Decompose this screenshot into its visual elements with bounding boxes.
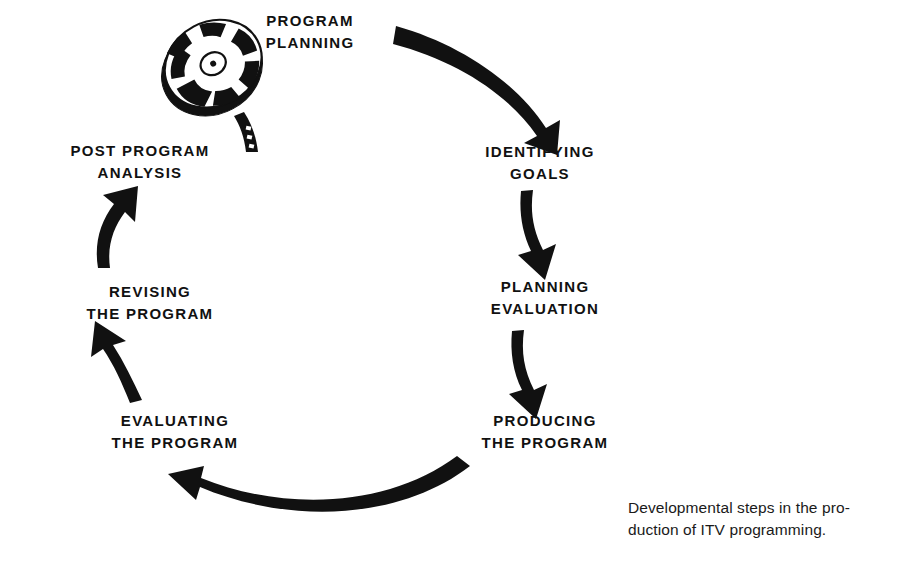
node-label-planning-evaluation: PLANNING EVALUATION <box>425 276 665 320</box>
arrow-evaluating-to-revising <box>91 321 142 403</box>
node-label-producing-the-program: PRODUCING THE PROGRAM <box>425 410 665 454</box>
figure-canvas: PROGRAM PLANNING IDENTIFYING GOALS PLANN… <box>0 0 906 578</box>
node-label-evaluating-the-program: EVALUATING THE PROGRAM <box>50 410 300 454</box>
node-label-revising-the-program: REVISING THE PROGRAM <box>35 281 265 325</box>
node-label-program-planning: PROGRAM PLANNING <box>200 10 420 54</box>
arrow-evaluation-to-producing <box>509 330 547 419</box>
arrow-goals-to-evaluation <box>518 190 556 280</box>
arrow-revising-to-analysis <box>97 186 138 268</box>
node-label-post-program-analysis: POST PROGRAM ANALYSIS <box>30 140 250 184</box>
node-label-identifying-goals: IDENTIFYING GOALS <box>430 141 650 185</box>
arrow-producing-to-evaluating <box>168 456 470 512</box>
figure-caption: Developmental steps in the pro- duction … <box>628 497 898 542</box>
